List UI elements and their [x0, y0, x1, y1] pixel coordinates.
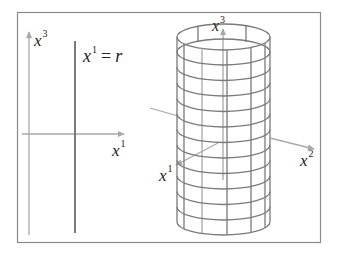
cylinder-x3-label: x3 — [212, 17, 225, 34]
line-equation-label: x1=r — [83, 47, 122, 65]
cylinder-bottom-rim — [177, 222, 270, 235]
figure-frame — [18, 13, 321, 243]
x2-axis-back — [150, 108, 178, 116]
left-x3-label: x3 — [34, 31, 48, 49]
label-base: x — [83, 46, 91, 66]
equals-sign: = — [101, 46, 111, 66]
label-superscript: 1 — [92, 44, 97, 55]
label-rhs: r — [115, 46, 122, 66]
ring — [177, 207, 270, 220]
label-superscript: 2 — [309, 148, 314, 159]
label-base: x — [159, 166, 167, 185]
label-superscript: 1 — [168, 163, 173, 174]
left-x1-label: x1 — [112, 141, 126, 159]
label-superscript: 3 — [220, 14, 225, 25]
label-superscript: 1 — [121, 138, 126, 149]
ring — [177, 192, 270, 205]
diagram-svg — [0, 0, 337, 255]
cylinder-x1-label: x1 — [159, 166, 173, 184]
cylinder-x2-label: x2 — [300, 151, 314, 169]
cylinder — [150, 24, 314, 235]
x1-axis-3d — [176, 143, 218, 165]
label-base: x — [112, 141, 120, 160]
coordinate-diagram: x3 x1=r x1 x3 x1 x2 — [0, 0, 337, 255]
label-base: x — [34, 31, 42, 50]
x2-axis-3d — [270, 138, 314, 149]
label-base: x — [212, 17, 219, 34]
label-base: x — [300, 151, 308, 170]
label-superscript: 3 — [43, 28, 48, 39]
